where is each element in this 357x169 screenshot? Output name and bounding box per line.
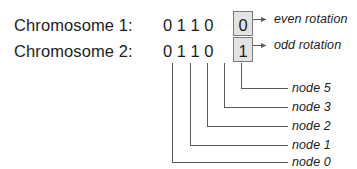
- chromosome-2-bits: 0 1 1 0: [163, 42, 213, 61]
- chromosome-encoding-diagram: Chromosome 1: 0 1 1 0 0 Chromosome 2: 0 …: [0, 0, 357, 169]
- node-1-label: node 1: [292, 138, 331, 152]
- node-1-leader: [191, 63, 289, 146]
- odd-rotation-callout: odd rotation: [274, 38, 341, 52]
- chromosome-1-bits: 0 1 1 0: [163, 16, 213, 35]
- chromosome-1-boxed-bit-value: 0: [233, 16, 253, 35]
- node-3-leader: [225, 63, 289, 108]
- node-3-label: node 3: [292, 100, 331, 114]
- node-0-label: node 0: [292, 155, 331, 169]
- chromosome-1-label: Chromosome 1:: [14, 16, 133, 35]
- node-2-leader: [208, 63, 289, 127]
- chromosome-2-boxed-bit-value: 1: [233, 42, 253, 61]
- node-2-label: node 2: [292, 119, 331, 133]
- node-0-leader: [173, 63, 289, 163]
- chromosome-2-label: Chromosome 2:: [14, 42, 133, 61]
- node-5-label: node 5: [292, 81, 331, 95]
- node-5-leader: [242, 63, 289, 89]
- even-rotation-callout: even rotation: [274, 12, 348, 26]
